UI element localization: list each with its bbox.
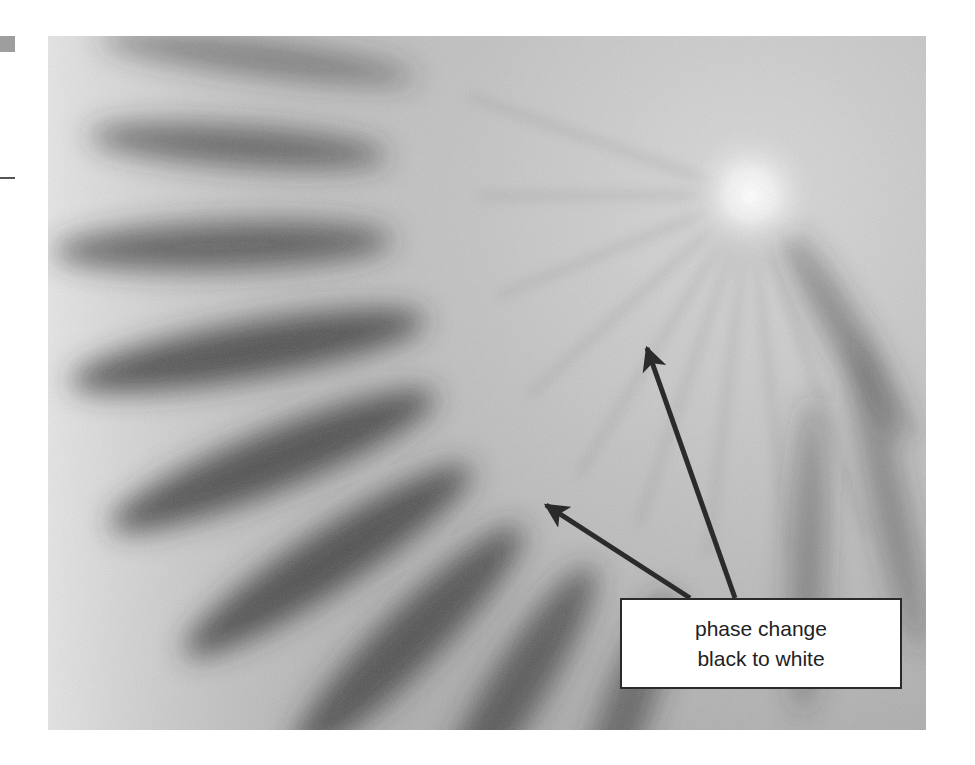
annotation-label-box: phase change black to white (620, 598, 902, 689)
edge-marker-square (0, 36, 15, 52)
annotation-label-line-1: phase change (695, 614, 827, 644)
edge-marker-line (0, 177, 15, 179)
annotation-label-line-2: black to white (697, 644, 824, 674)
